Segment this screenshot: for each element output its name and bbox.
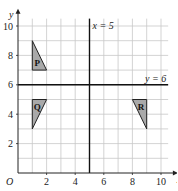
triangle-label-q: Q — [34, 102, 41, 112]
x-tick-label: 10 — [156, 176, 166, 187]
y-tick-label: 4 — [8, 109, 13, 120]
triangle-label-r: R — [138, 102, 145, 112]
axes — [16, 9, 178, 176]
line-x-label: x = 5 — [92, 20, 114, 31]
y-axis-label: y — [8, 9, 14, 20]
coordinate-grid: 246810246810Oxyx = 5y = 6PQR — [0, 0, 177, 191]
y-tick-label: 10 — [3, 21, 13, 32]
y-tick-label: 2 — [8, 138, 13, 149]
y-axis-arrow-icon — [16, 9, 21, 14]
x-tick-label: 6 — [101, 176, 106, 187]
x-tick-label: 2 — [44, 176, 49, 187]
x-tick-label: 8 — [130, 176, 135, 187]
line-y-label: y = 6 — [144, 73, 166, 84]
grid-lines — [18, 19, 168, 173]
x-axis-label: x — [176, 174, 177, 185]
origin-label: O — [6, 176, 13, 187]
y-tick-label: 8 — [8, 50, 13, 61]
y-tick-label: 6 — [8, 79, 13, 90]
reference-lines — [18, 19, 168, 173]
x-tick-label: 4 — [73, 176, 78, 187]
triangle-label-p: P — [35, 58, 41, 68]
